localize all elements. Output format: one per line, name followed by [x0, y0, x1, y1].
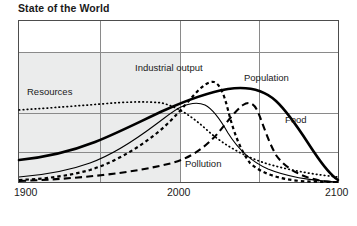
series-label-food: Food: [285, 114, 307, 125]
x-tick-2100: 2100: [325, 186, 348, 198]
series-label-population: Population: [244, 72, 289, 83]
x-tick-1900: 1900: [14, 186, 37, 198]
chart-page: State of the World: [0, 0, 357, 226]
x-tick-2000: 2000: [167, 186, 190, 198]
series-label-resources: Resources: [27, 86, 72, 97]
series-label-pollution: Pollution: [185, 158, 221, 169]
series-label-industrial-output: Industrial output: [135, 62, 203, 73]
